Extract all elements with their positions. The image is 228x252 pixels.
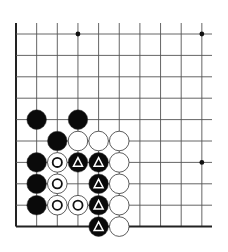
black-stone xyxy=(48,131,68,151)
white-stone xyxy=(109,153,129,173)
star-point-icon xyxy=(199,160,204,165)
black-stone-triangle-marked xyxy=(89,217,109,237)
white-stone xyxy=(109,174,129,194)
black-stone-triangle-marked xyxy=(89,195,109,215)
star-point-icon xyxy=(199,32,204,37)
go-board-diagram xyxy=(0,0,228,252)
star-point-icon xyxy=(76,32,81,37)
white-stone-circle-marked xyxy=(48,195,68,215)
board-grid xyxy=(16,23,212,227)
white-stone-circle-marked xyxy=(48,174,68,194)
black-stone xyxy=(68,110,88,130)
black-stone-triangle-marked xyxy=(89,174,109,194)
black-stone xyxy=(27,110,47,130)
white-stone-circle-marked xyxy=(68,195,88,215)
black-stone xyxy=(27,195,47,215)
white-stone xyxy=(89,131,109,151)
white-stone xyxy=(68,131,88,151)
white-stone xyxy=(109,217,129,237)
black-stone xyxy=(27,174,47,194)
white-stone xyxy=(109,131,129,151)
white-stone-circle-marked xyxy=(48,153,68,173)
black-stone xyxy=(27,153,47,173)
white-stone xyxy=(109,195,129,215)
black-stone-triangle-marked xyxy=(68,153,88,173)
black-stone-triangle-marked xyxy=(89,153,109,173)
